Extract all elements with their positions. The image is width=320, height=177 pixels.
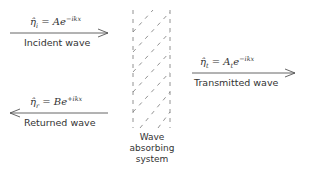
transmitted-wave-label: Transmitted wave <box>194 77 278 88</box>
system-label-line2: absorbing <box>122 143 182 154</box>
transmitted-equation: η̂t = Ate−ikx <box>200 55 254 70</box>
incident-wave-label: Incident wave <box>24 37 90 48</box>
absorbing-system-box <box>133 10 170 128</box>
incident-equation: η̂i = Ae−ikx <box>30 15 81 30</box>
system-label-line3: system <box>122 154 182 165</box>
returned-wave-label: Returned wave <box>24 117 95 128</box>
system-label-line1: Wave <box>122 132 182 143</box>
absorbing-system-label: Wave absorbing system <box>122 132 182 165</box>
returned-equation: η̂r = Be+ikx <box>30 95 82 110</box>
